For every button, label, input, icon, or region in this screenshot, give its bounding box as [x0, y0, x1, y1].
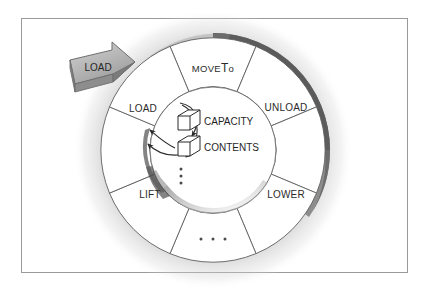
moveto-prefix: MOVE: [192, 63, 221, 74]
attribute-label-contents: CONTENTS: [204, 142, 259, 153]
moveto-capital-t: T: [221, 61, 229, 75]
ellipsis-dot: [212, 238, 215, 241]
ring-label-unload: UNLOAD: [265, 102, 308, 113]
ellipsis-dot: [180, 182, 183, 185]
ring-label-lift: LIFT: [139, 189, 160, 200]
attribute-ellipsis: [180, 168, 183, 185]
ring-label-lower: LOWER: [267, 189, 305, 200]
ring-label-load: LOAD: [129, 103, 157, 114]
ellipsis-dot: [224, 238, 227, 241]
ring-label-moveto: MOVETo: [192, 61, 234, 75]
segment-ellipsis: [200, 238, 227, 241]
ellipsis-dot: [180, 168, 183, 171]
ellipsis-dot: [200, 238, 203, 241]
diagram-canvas: LOAD MOVETo UNLOAD LOWER LIFT LOAD CAPAC…: [0, 0, 430, 291]
attribute-label-capacity: CAPACITY: [204, 116, 253, 127]
ellipsis-dot: [180, 175, 183, 178]
load-callout-label: LOAD: [84, 62, 111, 73]
moveto-suffix: o: [229, 63, 235, 74]
